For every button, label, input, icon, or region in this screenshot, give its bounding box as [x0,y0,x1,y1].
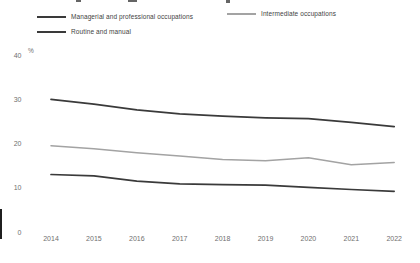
x-axis-tick-label: 2019 [258,235,274,242]
x-axis-tick-label: 2014 [43,235,59,242]
x-axis-tick-label: 2021 [344,235,360,242]
series-line-routine-and-manual [51,175,394,192]
y-axis-tick-label: 0 [18,229,22,236]
x-axis-tick-label: 2017 [172,235,188,242]
y-axis-tick-label: 20 [14,140,22,147]
x-axis-tick-label: 2015 [86,235,102,242]
y-axis-unit-label: % [28,47,34,54]
chart-page: { "colors": { "background": "#ffffff", "… [0,0,420,263]
x-axis-tick-label: 2020 [301,235,317,242]
x-axis-tick-label: 2018 [215,235,231,242]
y-axis-tick-label: 40 [14,52,22,59]
x-axis-tick-label: 2022 [386,235,402,242]
series-line-intermediate-occupations [51,146,394,165]
x-axis-tick-label: 2016 [129,235,145,242]
y-axis-tick-label: 10 [14,184,22,191]
series-line-managerial-and-professional-occupations [51,99,394,126]
y-axis-tick-label: 30 [14,96,22,103]
chart-canvas: 010203040%201420152016201720182019202020… [0,0,420,263]
